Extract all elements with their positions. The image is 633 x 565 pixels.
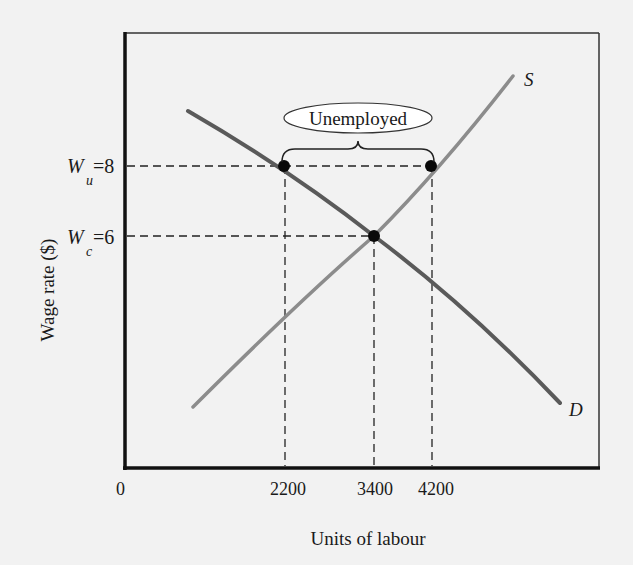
unemployed-brace (282, 141, 434, 162)
svg-text:=6: =6 (93, 226, 114, 248)
supply-label: S (524, 69, 534, 90)
y-tick-wc: W c =6 (67, 226, 114, 259)
y-axis-title: Wage rate ($) (37, 239, 59, 342)
unemployed-label: Unemployed (309, 108, 408, 129)
x-tick-2200: 2200 (270, 479, 306, 499)
y-tick-wu: W u =8 (67, 155, 114, 188)
svg-text:=8: =8 (93, 155, 114, 177)
x-axis-title: Units of labour (310, 528, 426, 549)
svg-text:W: W (67, 226, 86, 248)
demand-label: D (568, 399, 583, 420)
svg-text:W: W (67, 155, 86, 177)
point-equilibrium (368, 230, 380, 242)
x-tick-4200: 4200 (418, 479, 454, 499)
origin-label: 0 (116, 479, 125, 499)
labour-market-chart: Unemployed S D W u =8 W c =6 0 2200 3400… (0, 0, 633, 565)
svg-text:u: u (86, 173, 93, 188)
svg-text:c: c (86, 244, 93, 259)
point-supply-wu (425, 160, 437, 172)
x-tick-3400: 3400 (357, 479, 393, 499)
guide-lines (127, 166, 432, 466)
point-demand-wu (278, 160, 290, 172)
